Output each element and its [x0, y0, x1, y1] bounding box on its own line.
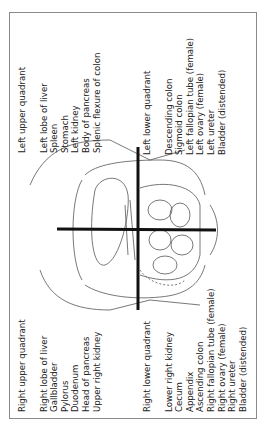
list-item: Left ureter: [206, 38, 217, 155]
right-lower-quadrant-block: Right lower quadrant Lower right kidney …: [142, 288, 248, 412]
list-item: Left fallopian tube (female): [185, 38, 196, 155]
right-upper-quadrant-title: Right upper quadrant: [17, 319, 28, 412]
list-item: Spleen: [49, 53, 60, 153]
right-lower-quadrant-title: Right lower quadrant: [142, 288, 153, 412]
list-item: Right lobe of liver: [39, 319, 50, 412]
list-item: Pylorus: [60, 319, 71, 412]
list-item: Left lobe of liver: [39, 53, 50, 153]
list-item: Right fallopian tube (female): [206, 288, 217, 412]
left-upper-quadrant-title: Left upper quadrant: [17, 53, 28, 153]
list-item: Bladder (distended): [217, 38, 228, 155]
list-item: Lower right kidney: [164, 288, 175, 412]
list-item: Left kidney: [70, 53, 81, 153]
list-item: Bladder (distended): [238, 288, 249, 412]
list-item: Head of pancreas: [81, 319, 92, 412]
list-item: Appendix: [185, 288, 196, 412]
list-item: Stomach: [60, 53, 71, 153]
left-lower-quadrant-block: Left lower quadrant Descending colon Sig…: [142, 38, 227, 155]
list-item: Splenic flexure of colon: [92, 53, 103, 153]
list-item: Descending colon: [164, 38, 175, 155]
left-lower-quadrant-title: Left lower quadrant: [142, 38, 153, 155]
list-item: Ascending colon: [195, 288, 206, 412]
list-item: Right ovary (female): [217, 288, 228, 412]
list-item: Body of pancreas: [81, 53, 92, 153]
list-item: Cecum: [174, 288, 185, 412]
left-upper-quadrant-block: Left upper quadrant Left lobe of liver S…: [17, 53, 102, 153]
list-item: Gallbladder: [49, 319, 60, 412]
list-item: Upper right kidney: [92, 319, 103, 412]
right-upper-quadrant-block: Right upper quadrant Right lobe of liver…: [17, 319, 102, 412]
horizontal-divider-line: [57, 229, 216, 230]
list-item: Sigmoid colon: [174, 38, 185, 155]
list-item: Left ovary (female): [195, 38, 206, 155]
list-item: Duodenum: [70, 319, 81, 412]
list-item: Right ureter: [227, 288, 238, 412]
